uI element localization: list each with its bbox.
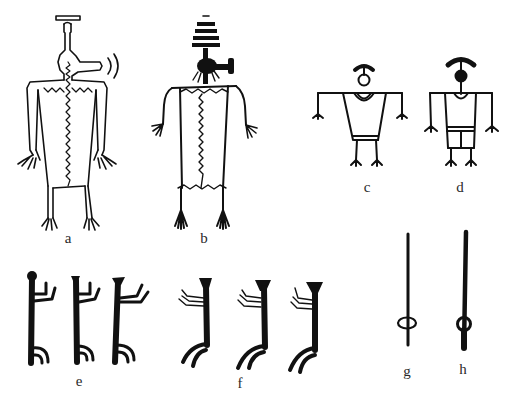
panel-f-figure-1 (179, 278, 212, 366)
panel-b-drawing (152, 16, 257, 229)
panel-c-label: c (364, 180, 371, 195)
panel-e-drawing (27, 271, 148, 363)
panel-d-drawing (425, 60, 498, 167)
panel-b-label: b (200, 231, 208, 246)
panel-f-label: f (238, 376, 243, 391)
panel-d-label: d (456, 180, 464, 195)
panel-a-label: a (65, 231, 72, 246)
panel-g-label: g (403, 364, 411, 379)
panel-e-figure-1 (27, 271, 55, 363)
panel-h-drawing (458, 232, 471, 348)
panel-e-label: e (76, 374, 83, 389)
panel-a-drawing (18, 16, 118, 230)
panel-e-figure-2 (71, 276, 99, 362)
panel-f-drawing (179, 278, 323, 372)
petroglyph-figure-plate: a b c d e f g h (0, 0, 511, 402)
panel-c-drawing (313, 66, 407, 166)
panel-e-figure-3 (112, 277, 148, 362)
panel-h-label: h (459, 362, 467, 377)
panel-f-figure-2 (238, 280, 271, 368)
panel-g-drawing (398, 234, 416, 345)
figure-drawings (0, 0, 511, 402)
panel-f-figure-3 (290, 282, 323, 372)
